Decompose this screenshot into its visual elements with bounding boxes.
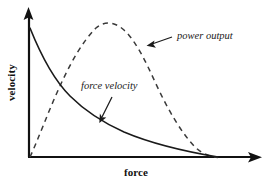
force-axis — [28, 152, 262, 162]
force-velocity-leader — [99, 97, 112, 123]
force-velocity-curve — [30, 28, 218, 157]
power-output-leader — [147, 37, 173, 48]
velocity-axis — [24, 7, 34, 157]
force-velocity-leader-line — [102, 97, 112, 117]
power-output-leader-line — [152, 37, 172, 44]
power-output-leader-arrowhead-icon — [147, 40, 156, 47]
power-output-label: power output — [177, 30, 233, 41]
chart-plot-area — [0, 0, 272, 185]
force-velocity-label: force velocity — [81, 80, 137, 91]
x-axis-title: force — [0, 166, 272, 178]
y-axis-title: velocity — [5, 73, 17, 101]
chart-figure: force velocity power output force veloci… — [0, 0, 272, 185]
